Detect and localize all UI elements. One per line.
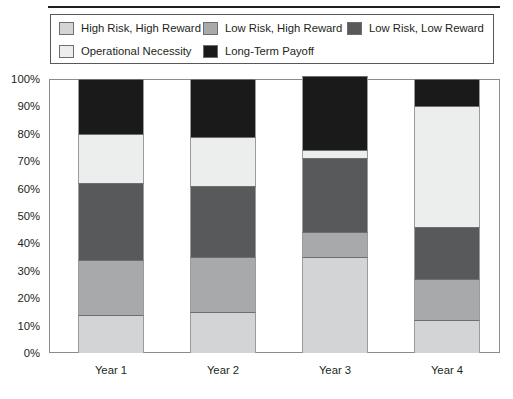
bar-segment-3-3[interactable] [414,106,480,227]
y-axis-tick-50: 50% [17,211,40,222]
legend-entry-1[interactable]: Low Risk, High Reward [203,17,342,39]
bar-segment-3-2[interactable] [414,227,480,279]
bar-segment-0-0[interactable] [78,315,144,353]
y-axis-tick-20: 20% [17,293,40,304]
stacked-bar-chart-figure: High Risk, High RewardLow Risk, High Rew… [0,0,513,399]
y-axis-tick-40: 40% [17,238,40,249]
legend-entry-2[interactable]: Low Risk, Low Reward [347,17,484,39]
bar-segment-1-2[interactable] [190,186,256,257]
bar-segment-1-0[interactable] [190,312,256,353]
top-horizontal-rule [48,6,500,8]
legend-label-0: High Risk, High Reward [81,22,201,35]
bar-segment-0-4[interactable] [78,79,144,134]
legend-label-4: Long-Term Payoff [225,45,314,58]
y-axis-tick-10: 10% [17,320,40,331]
bar-segment-2-3[interactable] [302,150,368,158]
legend-row-second: Operational NecessityLong-Term Payoff [51,40,493,62]
y-axis-tick-70: 70% [17,156,40,167]
y-axis-tick-90: 90% [17,101,40,112]
bar-segment-0-2[interactable] [78,183,144,260]
bar-segment-0-1[interactable] [78,260,144,315]
y-axis-tick-60: 60% [17,183,40,194]
legend-entry-0[interactable]: High Risk, High Reward [59,17,201,39]
swatch-low-risk-low-reward-icon [347,22,362,35]
x-axis-tick-year-4: Year 4 [431,364,463,377]
legend-label-3: Operational Necessity [81,45,192,58]
bar-segment-1-4[interactable] [190,79,256,137]
legend-entry-4[interactable]: Long-Term Payoff [203,40,314,62]
swatch-operational-necessity-icon [59,45,74,58]
y-axis-tick-30: 30% [17,265,40,276]
bar-segment-2-1[interactable] [302,232,368,257]
y-axis-tick-0: 0% [24,348,40,359]
chart-legend: High Risk, High RewardLow Risk, High Rew… [50,14,494,64]
x-axis-tick-labels: Year 1Year 2Year 3Year 4 [49,360,500,382]
bar-segment-3-4[interactable] [414,79,480,106]
x-axis-tick-year-2: Year 2 [207,364,239,377]
bar-segment-3-1[interactable] [414,279,480,320]
bar-year-1[interactable] [78,79,144,353]
x-axis-tick-year-3: Year 3 [319,364,351,377]
plot-area-bars [49,79,500,353]
y-axis-tick-labels: 0%10%20%30%40%50%60%70%80%90%100% [0,72,44,360]
bar-segment-3-0[interactable] [414,320,480,353]
legend-entry-3[interactable]: Operational Necessity [59,40,192,62]
bar-segment-2-4[interactable] [302,76,368,150]
bar-segment-2-2[interactable] [302,158,368,232]
bar-segment-0-3[interactable] [78,134,144,183]
bar-segment-1-1[interactable] [190,257,256,312]
legend-row-first: High Risk, High RewardLow Risk, High Rew… [51,17,493,39]
swatch-low-risk-high-reward-icon [203,22,218,35]
bar-year-3[interactable] [302,79,368,353]
bar-segment-1-3[interactable] [190,137,256,186]
legend-label-2: Low Risk, Low Reward [369,22,484,35]
bar-year-2[interactable] [190,79,256,353]
bar-year-4[interactable] [414,79,480,353]
legend-label-1: Low Risk, High Reward [225,22,342,35]
y-axis-tick-80: 80% [17,128,40,139]
swatch-long-term-payoff-icon [203,45,218,58]
swatch-high-risk-high-reward-icon [59,22,74,35]
bar-segment-2-0[interactable] [302,257,368,353]
y-axis-tick-100: 100% [11,74,40,85]
x-axis-tick-year-1: Year 1 [95,364,127,377]
